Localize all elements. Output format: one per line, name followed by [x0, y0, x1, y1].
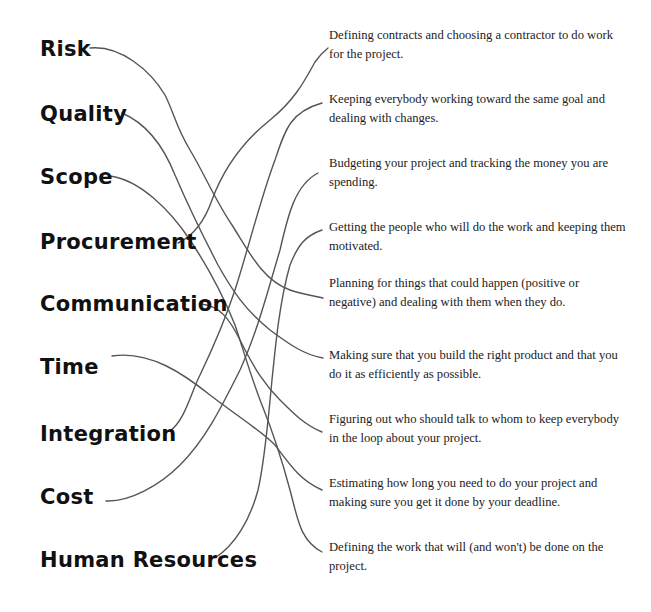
connector-cost: [106, 173, 318, 501]
term-risk: Risk: [40, 39, 91, 60]
description-integration: Keeping everybody working toward the sam…: [329, 90, 629, 128]
term-cost: Cost: [40, 487, 94, 508]
description-human-resources: Getting the people who will do the work …: [329, 218, 629, 256]
term-scope: Scope: [40, 167, 113, 188]
description-communication: Figuring out who should talk to whom to …: [329, 410, 629, 448]
description-time: Estimating how long you need to do your …: [329, 474, 629, 512]
term-procurement: Procurement: [40, 232, 197, 253]
description-risk: Planning for things that could happen (p…: [329, 274, 629, 312]
description-cost: Budgeting your project and tracking the …: [329, 154, 629, 192]
term-human-resources: Human Resources: [40, 550, 257, 571]
connector-procurement: [178, 48, 328, 243]
description-quality: Making sure that you build the right pro…: [329, 346, 629, 384]
connector-risk: [90, 48, 323, 298]
description-scope: Defining the work that will (and won't) …: [329, 538, 629, 576]
term-time: Time: [40, 357, 99, 378]
term-communication: Communication: [40, 294, 228, 315]
connector-human-resources: [215, 230, 322, 558]
matching-diagram: Risk Quality Scope Procurement Communica…: [0, 0, 651, 612]
term-integration: Integration: [40, 424, 177, 445]
description-procurement: Defining contracts and choosing a contra…: [329, 26, 629, 64]
term-quality: Quality: [40, 104, 127, 125]
